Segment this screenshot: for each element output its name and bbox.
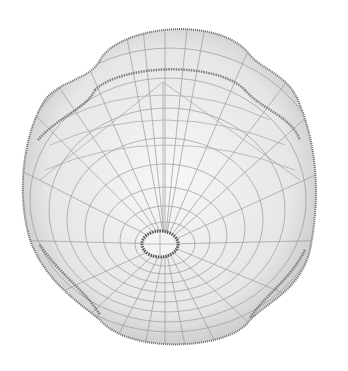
surface-outline	[23, 29, 316, 344]
wireframe-surface	[0, 0, 348, 371]
surface-hole	[142, 231, 178, 257]
mesh-render	[0, 0, 348, 371]
